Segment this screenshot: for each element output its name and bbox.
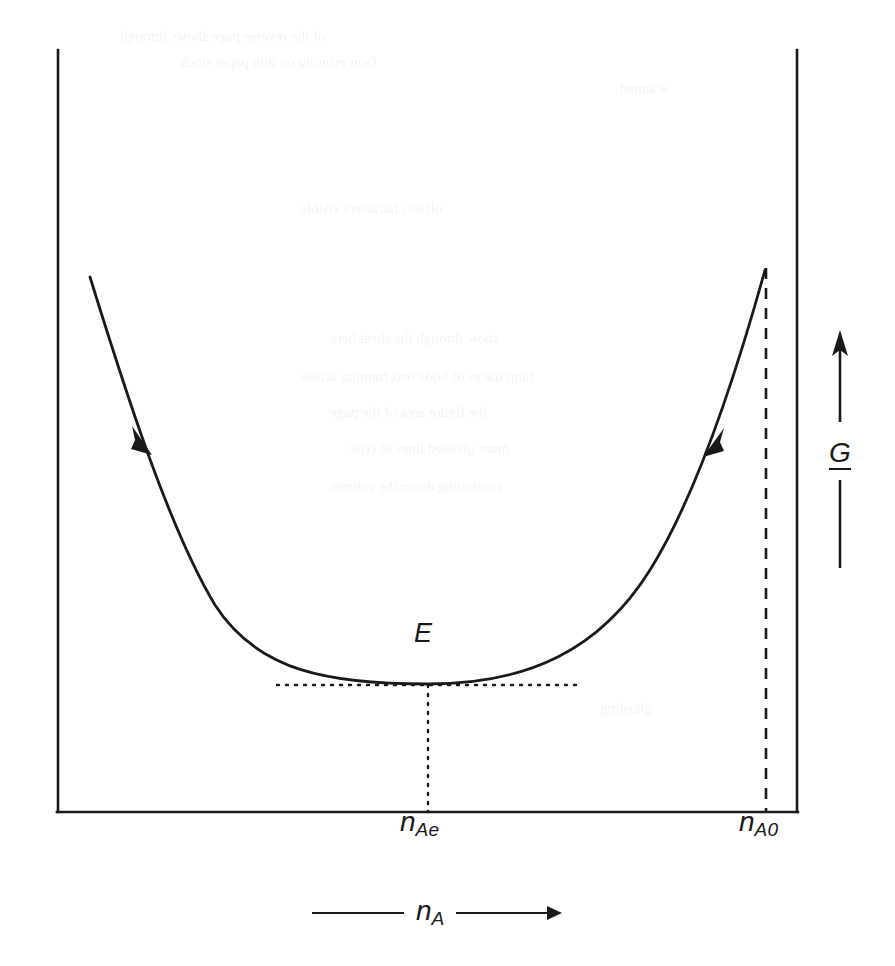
left-branch-direction-arrow <box>131 426 152 455</box>
y-axis-label: G <box>829 437 851 470</box>
x-axis-label-right-arrow <box>456 906 562 920</box>
x-axis-arrow-shaft <box>456 912 548 914</box>
x-axis-label-left-rule <box>312 912 404 914</box>
equilibrium-point-label: E <box>414 618 432 649</box>
x-axis-arrow-head-icon <box>547 906 562 920</box>
axis-spines <box>57 50 798 812</box>
x-axis-label-text: nA <box>416 895 444 930</box>
x-tick-equilibrium-symbol: n <box>400 806 416 837</box>
x-tick-label-initial: nA0 <box>739 806 778 841</box>
x-axis-symbol: n <box>416 895 432 926</box>
x-axis-subscript: A <box>432 908 445 929</box>
g-axis-direction-arrow <box>832 330 848 422</box>
x-tick-equilibrium-subscript: Ae <box>416 819 440 840</box>
x-axis-label: nA <box>300 895 562 930</box>
x-tick-initial-subscript: A0 <box>755 819 779 840</box>
x-tick-label-equilibrium: nAe <box>400 806 439 841</box>
x-tick-initial-symbol: n <box>739 806 755 837</box>
gibbs-energy-figure: of the reverse page shows through faint … <box>0 0 895 966</box>
y-axis-label-symbol: G <box>829 438 851 470</box>
